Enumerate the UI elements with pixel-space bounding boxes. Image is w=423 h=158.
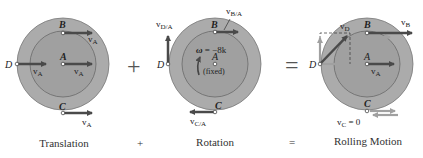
- label-d: D: [308, 59, 317, 70]
- label-vc: vA: [82, 117, 92, 129]
- point-d: [15, 62, 19, 66]
- label-c: C: [215, 100, 222, 111]
- label-b: B: [58, 19, 66, 30]
- translation-panel: B A D C vA vA vA vA: [4, 18, 109, 129]
- caption-translation: Translation: [39, 137, 89, 149]
- label-c: C: [364, 98, 371, 109]
- rolling-motion-diagram: B A D C vA vA vA vA + B A D C ω = −8k (f…: [0, 0, 423, 158]
- point-d: [318, 62, 322, 66]
- caption-plus: +: [137, 137, 143, 149]
- label-d: D: [156, 59, 165, 70]
- caption-rotation: Rotation: [196, 136, 234, 148]
- label-vca: vC/A: [190, 116, 206, 128]
- caption-rolling-motion: Rolling Motion: [334, 135, 403, 147]
- label-c: C: [59, 101, 66, 112]
- label-vba: vB/A: [226, 6, 242, 18]
- point-a: [61, 62, 65, 66]
- point-a: [365, 62, 369, 66]
- label-d: D: [4, 59, 13, 70]
- label-vb: vB: [401, 17, 411, 29]
- label-b: B: [363, 19, 371, 30]
- rolling-motion-panel: B A D C vB vD vA vC = 0: [308, 17, 413, 129]
- point-b: [213, 30, 217, 34]
- fixed-label: (fixed): [203, 67, 225, 76]
- omega-label: ω = −8k: [196, 45, 227, 55]
- point-c: [365, 109, 369, 113]
- equals-operator: =: [285, 52, 299, 78]
- label-a: A: [363, 51, 371, 62]
- label-vc: vC = 0: [337, 117, 361, 129]
- caption-equals: =: [289, 136, 295, 148]
- rotation-panel: B A D C ω = −8k (fixed) vB/A vD/A vC/A: [156, 6, 261, 128]
- label-vda: vD/A: [156, 19, 173, 31]
- label-b: B: [210, 19, 218, 30]
- point-b: [61, 31, 65, 35]
- plus-operator: +: [127, 53, 141, 79]
- label-a: A: [59, 51, 67, 62]
- point-d: [166, 62, 170, 66]
- point-a: [213, 62, 217, 66]
- point-b: [365, 31, 369, 35]
